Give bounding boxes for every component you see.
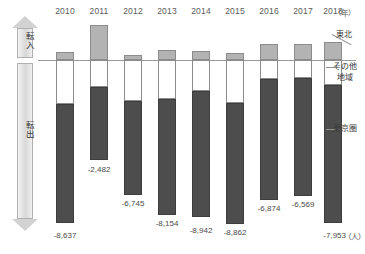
bar-segment-tohoku (260, 44, 278, 60)
bar-segment-tokyo (90, 87, 108, 160)
legend-label-other-line2: 地域 (337, 73, 353, 83)
bar-group-2010[interactable]: -8,637 (48, 0, 82, 254)
bar-segment-tokyo (324, 85, 342, 223)
bar-group-2013[interactable]: -8,154 (150, 0, 184, 254)
bar-segment-other (158, 60, 176, 99)
bar-segment-tokyo (226, 103, 244, 224)
bar-segment-tohoku (90, 25, 108, 60)
bar-segment-other (90, 60, 108, 87)
bar-segment-tokyo (294, 78, 312, 196)
bar-segment-tohoku (158, 50, 176, 60)
inflow-arrow: 転入 (12, 16, 38, 58)
bar-total-unit-label: （人） (344, 231, 365, 242)
bar-segment-other (226, 60, 244, 103)
bar-group-2012[interactable]: -6,745 (116, 0, 150, 254)
bar-group-2011[interactable]: -2,482 (82, 0, 116, 254)
bar-segment-tohoku (192, 51, 210, 60)
bar-segment-other (56, 60, 74, 104)
outflow-arrow: 転出 (12, 63, 38, 231)
bar-segment-other (260, 60, 278, 79)
bar-segment-tohoku (56, 52, 74, 60)
bar-group-2017[interactable]: -6,569 (286, 0, 320, 254)
inflow-arrow-label: 転入 (17, 32, 33, 50)
bar-group-2014[interactable]: -8,942 (184, 0, 218, 254)
bar-segment-tohoku (226, 53, 244, 60)
bar-segment-tokyo (158, 99, 176, 215)
outflow-arrow-shaft (17, 63, 33, 219)
legend-label-other-line1: その他 (333, 62, 357, 72)
bar-segment-tohoku (324, 42, 342, 60)
bar-segment-tokyo (260, 79, 278, 200)
bar-total-label: -7,953 (294, 231, 346, 240)
outflow-arrow-label: 転出 (17, 121, 33, 139)
bar-segment-other (124, 60, 142, 101)
legend-label-tohoku: 東北 (336, 30, 352, 40)
arrow-down-icon (12, 219, 38, 231)
bar-segment-tohoku (294, 44, 312, 60)
bar-segment-tokyo (124, 101, 142, 195)
arrow-up-icon (12, 16, 38, 28)
bar-segment-tokyo (56, 104, 74, 223)
bar-segment-tokyo (192, 91, 210, 217)
bar-group-2016[interactable]: -6,874 (252, 0, 286, 254)
bar-segment-other (294, 60, 312, 78)
bar-segment-other (192, 60, 210, 91)
bar-group-2015[interactable]: -8,862 (218, 0, 252, 254)
legend-label-tokyo: 東京圏 (333, 124, 357, 134)
